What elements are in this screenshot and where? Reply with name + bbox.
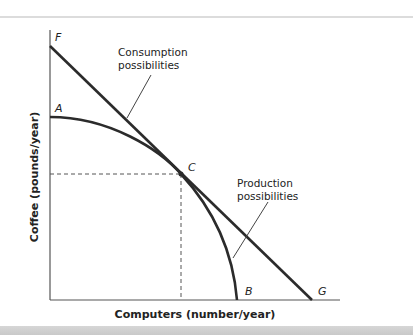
x-axis-title: Computers (number/year) xyxy=(115,308,276,321)
consumption-leader-line xyxy=(127,75,151,118)
y-axis-title: Coffee (pounds/year) xyxy=(28,112,41,242)
point-f-label: F xyxy=(55,31,62,44)
consumption-label-line2: possibilities xyxy=(118,59,179,71)
bottom-divider xyxy=(0,326,413,335)
production-label-line2: possibilities xyxy=(237,190,298,202)
point-b-label: B xyxy=(245,285,253,298)
production-label-line1: Production xyxy=(237,177,293,189)
production-possibilities-curve xyxy=(50,117,237,300)
point-g-label: G xyxy=(318,285,327,298)
point-c-marker xyxy=(179,172,184,177)
consumption-label-line1: Consumption xyxy=(118,46,188,58)
ppf-diagram: F A C B G Consumption possibilities Prod… xyxy=(0,0,413,335)
point-a-label: A xyxy=(54,102,63,115)
point-c-label: C xyxy=(188,161,196,174)
